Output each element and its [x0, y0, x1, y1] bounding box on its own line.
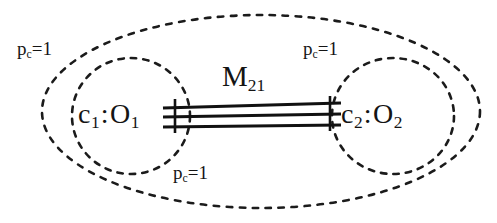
- left-node-label: c1:O1: [78, 100, 139, 131]
- right-node-instance: c: [341, 98, 354, 129]
- outer-container-annotation: pc=1: [17, 39, 52, 61]
- outer-annotation-suffix: =1: [32, 38, 52, 59]
- left-annotation-suffix: =1: [188, 162, 208, 183]
- edge-m21-lines: [163, 103, 341, 127]
- outer-annotation-base: p: [17, 38, 27, 59]
- diagram-vector-layer: [0, 0, 497, 223]
- right-node-classifier: O: [373, 98, 394, 129]
- diagram-canvas: c1:O1 c2:O2 M21 pc=1 pc=1 pc=1: [0, 0, 497, 223]
- right-node-label: c2:O2: [341, 100, 402, 131]
- left-node-annotation: pc=1: [173, 163, 208, 185]
- left-node-classifier-subscript: 1: [131, 113, 140, 132]
- left-node-separator: :: [100, 98, 110, 129]
- edge-line-bottom: [163, 125, 341, 127]
- left-node-instance-subscript: 1: [91, 113, 100, 132]
- right-node-annotation: pc=1: [303, 39, 338, 61]
- right-annotation-suffix: =1: [318, 38, 338, 59]
- right-node-separator: :: [363, 98, 373, 129]
- left-node-classifier: O: [110, 98, 131, 129]
- right-node-classifier-subscript: 2: [394, 113, 403, 132]
- right-node-instance-subscript: 2: [354, 113, 363, 132]
- left-node-instance: c: [78, 98, 91, 129]
- edge-label-m21: M21: [222, 62, 265, 94]
- edge-label-base: M: [222, 60, 248, 92]
- left-annotation-base: p: [173, 162, 183, 183]
- edge-label-subscript: 21: [248, 75, 265, 95]
- right-annotation-base: p: [303, 38, 313, 59]
